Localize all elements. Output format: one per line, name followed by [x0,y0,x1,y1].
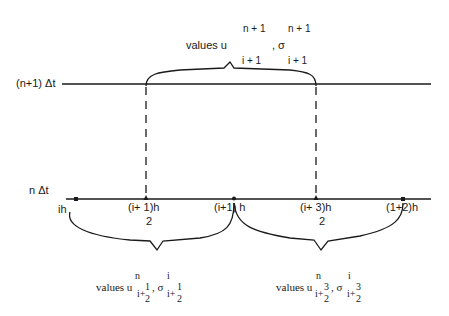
bl-u-frac-num: 1 [145,282,150,292]
bl-sigma-frac-num: 1 [177,282,182,292]
staggered-grid-diagram: (n+1) Δt n Δt values u n + 1 i + 1 , σ n… [0,0,449,316]
bl-u-superscript: n [135,271,140,281]
grid-label-i-three-halves-denominator: 2 [319,216,325,227]
br-u-subscript: i+ [315,289,323,299]
grid-point-i-three-halves [314,195,319,200]
br-separator: , σ [331,282,342,293]
br-sigma-frac-num: 3 [356,282,361,292]
br-u-frac-den: 2 [324,294,329,304]
bl-separator: , σ [152,282,163,293]
top-u-subscript: i + 1 [242,56,261,66]
top-annotation-separator: , σ [272,40,285,51]
top-sigma-superscript: n + 1 [288,24,311,34]
grid-label-i-half-denominator: 2 [146,216,152,227]
br-prefix: values u [276,282,312,293]
br-sigma-superscript: i [348,271,351,281]
time-label-n-plus-1: (n+1) Δt [16,78,55,89]
bl-prefix: values u [96,282,132,293]
top-annotation-prefix: values u [186,40,227,51]
bl-u-frac-den: 2 [145,294,150,304]
bl-sigma-subscript: i+ [167,289,175,299]
grid-point-ih [74,197,78,201]
br-u-frac-num: 3 [324,282,329,292]
grid-label-i-three-halves: (i+ 3)h [300,202,332,213]
br-u-superscript: n [316,271,321,281]
top-sigma-subscript: i + 1 [288,56,307,66]
grid-label-i-plus-1: (i+1) h [214,202,246,213]
top-u-superscript: n + 1 [243,24,266,34]
grid-label-i-plus-2: (1+2)h [386,202,418,213]
bl-sigma-superscript: i [167,271,170,281]
br-sigma-subscript: i+ [347,289,355,299]
grid-label-i-half: (i+ 1)h [128,202,160,213]
br-sigma-frac-den: 2 [356,294,361,304]
time-label-n: n Δt [29,185,49,196]
grid-point-i-half [144,195,149,200]
grid-label-ih: ih [58,204,67,215]
bl-sigma-frac-den: 2 [177,294,182,304]
grid-point-i-plus-1 [232,197,236,201]
